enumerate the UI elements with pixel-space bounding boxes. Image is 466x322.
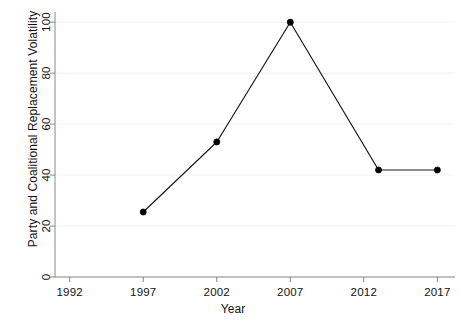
data-point (287, 19, 293, 25)
x-axis-title: Year (0, 302, 466, 316)
chart-canvas (0, 0, 466, 322)
x-tick-label: 2017 (424, 286, 450, 298)
data-line (143, 22, 437, 212)
data-point (434, 167, 440, 173)
y-tick-label: 0 (39, 261, 53, 293)
y-tick-label: 100 (39, 6, 53, 38)
y-tick-label: 60 (39, 108, 53, 140)
x-tick-label: 2007 (277, 286, 303, 298)
series-line (143, 22, 437, 212)
data-point (140, 209, 146, 215)
y-axis-title: Party and Coalitional Replacement Volati… (26, 4, 40, 254)
y-tick-label: 20 (39, 210, 53, 242)
y-tick-label: 80 (39, 57, 53, 89)
data-point (375, 167, 381, 173)
y-tick-label: 40 (39, 159, 53, 191)
chart-figure: 020406080100 199219972002200720122017 Pa… (0, 0, 466, 322)
gridlines (55, 22, 455, 277)
axis-ticks (50, 22, 437, 282)
data-points (140, 19, 440, 215)
x-tick-label: 2012 (351, 286, 377, 298)
x-tick-label: 2002 (204, 286, 230, 298)
x-tick-label: 1997 (130, 286, 156, 298)
axis-lines (55, 12, 455, 277)
x-tick-label: 1992 (57, 286, 83, 298)
data-point (214, 139, 220, 145)
